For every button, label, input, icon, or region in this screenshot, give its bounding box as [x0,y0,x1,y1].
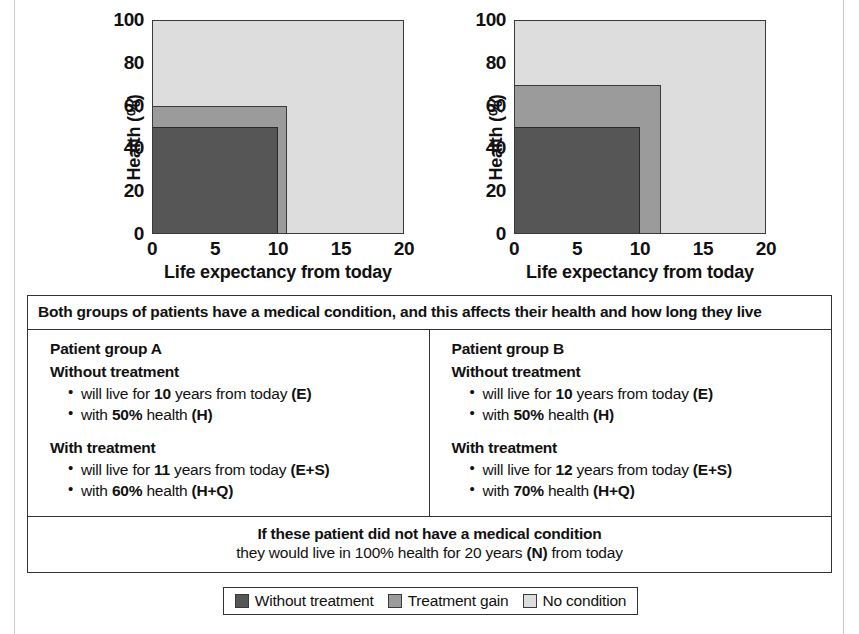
list-item: will live for 11 years from today (E+S) [68,459,415,480]
bullet-value: 10 [154,385,171,402]
chart-b-ytick-100: 100 [458,9,506,31]
chart-b-xtick-20: 20 [756,238,776,260]
list-item: will live for 10 years from today (E) [470,383,818,404]
bullet-value: 70% [513,482,543,499]
legend-item-without-treatment: Without treatment [235,592,374,610]
footer-post: from today [547,544,622,561]
bullet-post: health [544,406,593,423]
group-a-title: Patient group A [50,340,415,358]
table-footer-row: If these patient did not have a medical … [28,517,831,572]
chart-a-xtick-0: 0 [147,238,157,260]
footer-line-2: they would live in 100% health for 20 ye… [38,544,821,562]
bullet-pre: with [81,482,112,499]
legend-label-treatment-gain: Treatment gain [408,592,509,610]
bullet-post: years from today [572,461,692,478]
legend-swatch-icon-no-condition [523,594,537,608]
chart-a-ytick-100: 100 [96,9,144,31]
group-a-without-heading: Without treatment [50,363,415,381]
chart-a-xtick-15: 15 [331,238,351,260]
group-a-with-heading: With treatment [50,439,415,457]
group-b-with-heading: With treatment [452,439,818,457]
table-cell-group-b: Patient group B Without treatment will l… [430,330,832,516]
chart-b-ytick-40: 40 [458,137,506,159]
chart-b-ytick-20: 20 [458,180,506,202]
bullet-tag: (H+Q) [192,482,234,499]
bullet-pre: will live for [81,385,154,402]
bullet-value: 50% [112,406,142,423]
footer-line-1: If these patient did not have a medical … [38,525,821,543]
chart-a-xtick-10: 10 [268,238,288,260]
chart-patient-group-b: Health (%) 100 80 60 40 20 0 0 5 10 15 2… [440,0,800,282]
chart-legend: Without treatment Treatment gain No cond… [223,587,638,615]
list-item: with 60% health (H+Q) [68,480,415,501]
table-groups-row: Patient group A Without treatment will l… [28,330,831,517]
bullet-post: years from today [171,385,291,402]
charts-panel: Health (%) 100 80 60 40 20 0 0 5 10 15 2… [0,0,859,282]
legend-item-no-condition: No condition [523,592,627,610]
bullet-post: health [544,482,593,499]
bullet-tag: (E) [693,385,713,402]
chart-a-xtick-20: 20 [394,238,414,260]
chart-b-xtick-0: 0 [509,238,519,260]
bullet-pre: with [483,406,514,423]
cropped-caption-remnant [28,624,728,633]
chart-a-ytick-60: 60 [96,95,144,117]
chart-b-xtick-10: 10 [630,238,650,260]
bullet-tag: (E+S) [693,461,732,478]
bullet-tag: (H) [593,406,614,423]
table-cell-group-a: Patient group A Without treatment will l… [28,330,430,516]
legend-label-without-treatment: Without treatment [255,592,374,610]
group-a-with-bullets: will live for 11 years from today (E+S) … [68,459,415,502]
chart-a-plot-area [152,20,404,234]
list-item: with 50% health (H) [470,404,818,425]
chart-b-ytick-0: 0 [458,223,506,245]
bullet-post: health [142,406,191,423]
list-item: with 70% health (H+Q) [470,480,818,501]
table-header-row: Both groups of patients have a medical c… [28,296,831,330]
group-b-without-bullets: will live for 10 years from today (E) wi… [470,383,818,426]
list-item: with 50% health (H) [68,404,415,425]
bullet-post: health [142,482,191,499]
bullet-pre: with [483,482,514,499]
bullet-tag: (H+Q) [593,482,635,499]
bullet-pre: with [81,406,112,423]
patient-info-table: Both groups of patients have a medical c… [27,295,832,573]
legend-swatch-icon-without-treatment [235,594,249,608]
bullet-post: years from today [572,385,692,402]
bullet-tag: (E+S) [290,461,329,478]
chart-a-xtick-5: 5 [210,238,220,260]
footer-tag: (N) [526,544,547,561]
bullet-value: 11 [154,461,170,478]
bullet-post: years from today [170,461,290,478]
footer-pre: they would live in 100% health for 20 ye… [236,544,526,561]
chart-a-ytick-80: 80 [96,52,144,74]
legend-swatch-icon-treatment-gain [388,594,402,608]
group-a-without-bullets: will live for 10 years from today (E) wi… [68,383,415,426]
bullet-pre: will live for [483,385,556,402]
legend-label-no-condition: No condition [543,592,627,610]
chart-b-ytick-80: 80 [458,52,506,74]
bullet-pre: will live for [483,461,556,478]
group-b-title: Patient group B [452,340,818,358]
bullet-tag: (E) [291,385,311,402]
chart-b-xtick-5: 5 [572,238,582,260]
list-item: will live for 12 years from today (E+S) [470,459,818,480]
chart-a-ytick-0: 0 [96,223,144,245]
chart-a-ytick-20: 20 [96,180,144,202]
chart-a-band-without-treatment [153,127,278,233]
bullet-value: 50% [513,406,543,423]
chart-b-band-without-treatment [515,127,640,233]
bullet-pre: will live for [81,461,154,478]
group-b-without-heading: Without treatment [452,363,818,381]
chart-b-plot-area [514,20,766,234]
group-b-with-bullets: will live for 12 years from today (E+S) … [470,459,818,502]
bullet-tag: (H) [192,406,213,423]
chart-b-ytick-60: 60 [458,95,506,117]
list-item: will live for 10 years from today (E) [68,383,415,404]
chart-patient-group-a: Health (%) 100 80 60 40 20 0 0 5 10 15 2… [78,0,438,282]
legend-item-treatment-gain: Treatment gain [388,592,509,610]
chart-a-ytick-40: 40 [96,137,144,159]
chart-a-x-axis-label: Life expectancy from today [152,262,404,283]
bullet-value: 12 [556,461,573,478]
bullet-value: 10 [556,385,573,402]
